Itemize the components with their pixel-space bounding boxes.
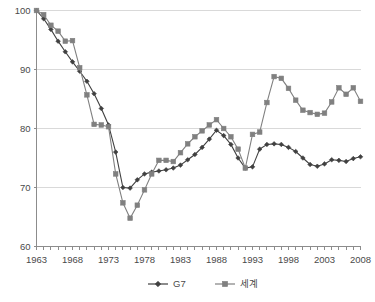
data-point-marker [142, 188, 147, 193]
data-point-marker [164, 168, 169, 173]
data-point-marker [41, 12, 46, 17]
plot-area [34, 8, 363, 220]
data-point-marker [329, 157, 334, 162]
data-point-marker [214, 117, 219, 122]
data-point-marker [99, 106, 104, 111]
data-point-marker [207, 123, 212, 128]
y-axis-tick-label: 90 [20, 64, 31, 75]
data-point-marker [155, 281, 161, 287]
data-point-marker [351, 156, 356, 161]
x-axis-tick-label: 1968 [62, 254, 83, 265]
y-axis-tick-label: 70 [20, 182, 31, 193]
axes-group [34, 10, 361, 250]
data-point-marker [315, 112, 320, 117]
data-point-marker [171, 166, 176, 171]
data-point-marker [99, 123, 104, 128]
data-point-marker [329, 100, 334, 105]
data-point-marker [358, 155, 363, 160]
y-axis-labels-group: 60708090100 [15, 5, 31, 252]
series-g7 [34, 8, 363, 190]
data-point-marker [272, 142, 277, 147]
data-point-marker [70, 38, 75, 43]
data-point-marker [322, 111, 327, 116]
x-axis-labels-group: 1963196819731978198319881993199820032008 [26, 254, 371, 265]
data-point-marker [85, 93, 90, 98]
data-point-marker [229, 134, 234, 139]
chart-container: 60708090100 1963196819731978198319881993… [0, 0, 375, 302]
data-point-marker [250, 132, 255, 137]
data-point-marker [171, 159, 176, 164]
data-point-marker [344, 92, 349, 97]
x-axis-tick-label: 2003 [314, 254, 335, 265]
data-point-marker [63, 39, 68, 44]
data-point-marker [265, 100, 270, 105]
gridlines-group [37, 11, 361, 247]
data-point-marker [135, 203, 140, 208]
data-point-marker [149, 172, 154, 177]
legend-label: G7 [173, 278, 186, 289]
chart-legend: G7세계 [148, 278, 258, 289]
data-point-marker [222, 281, 227, 286]
data-point-marker [293, 98, 298, 103]
data-point-marker [286, 86, 291, 91]
data-point-marker [322, 162, 327, 167]
series-line [37, 11, 361, 189]
data-point-marker [315, 164, 320, 169]
data-point-marker [56, 29, 61, 34]
series-world [34, 8, 363, 220]
legend-item-world[interactable]: 세계 [215, 278, 258, 289]
data-point-marker [92, 91, 97, 96]
data-point-marker [92, 122, 97, 127]
data-point-marker [250, 165, 255, 170]
data-point-marker [279, 76, 284, 81]
data-point-marker [121, 201, 126, 206]
y-axis-tick-label: 60 [20, 241, 31, 252]
legend-item-g7[interactable]: G7 [148, 278, 186, 289]
x-axis-tick-label: 1988 [206, 254, 227, 265]
data-point-marker [34, 8, 39, 13]
data-point-marker [272, 74, 277, 79]
x-axis-tick-label: 2008 [350, 254, 371, 265]
data-point-marker [121, 185, 126, 190]
data-point-marker [301, 108, 306, 113]
x-axis-tick-label: 1978 [134, 254, 155, 265]
data-point-marker [113, 172, 118, 177]
data-point-marker [236, 147, 241, 152]
data-point-marker [157, 158, 162, 163]
data-point-marker [358, 99, 363, 104]
data-point-marker [193, 134, 198, 139]
data-point-marker [128, 216, 133, 221]
data-point-marker [337, 85, 342, 90]
line-chart: 60708090100 1963196819731978198319881993… [0, 0, 375, 302]
data-point-marker [344, 159, 349, 164]
y-axis-tick-label: 100 [15, 5, 31, 16]
data-point-marker [221, 126, 226, 131]
data-point-marker [106, 124, 111, 129]
data-point-marker [243, 166, 248, 171]
x-axis-tick-label: 1998 [278, 254, 299, 265]
legend-label: 세계 [240, 278, 258, 289]
y-axis-tick-label: 80 [20, 123, 31, 134]
x-axis-tick-label: 1993 [242, 254, 263, 265]
data-point-marker [257, 130, 262, 135]
data-point-marker [157, 169, 162, 174]
x-axis-tick-label: 1983 [170, 254, 191, 265]
data-point-marker [279, 142, 284, 147]
data-point-marker [164, 158, 169, 163]
data-point-marker [77, 65, 82, 70]
data-point-marker [200, 129, 205, 134]
data-point-marker [49, 23, 54, 28]
data-point-marker [113, 150, 118, 155]
data-point-marker [178, 150, 183, 155]
x-axis-tick-label: 1963 [26, 254, 47, 265]
data-point-marker [185, 142, 190, 147]
data-point-marker [286, 145, 291, 150]
x-axis-tick-label: 1973 [98, 254, 119, 265]
data-point-marker [337, 158, 342, 163]
data-point-marker [351, 85, 356, 90]
data-point-marker [308, 110, 313, 115]
